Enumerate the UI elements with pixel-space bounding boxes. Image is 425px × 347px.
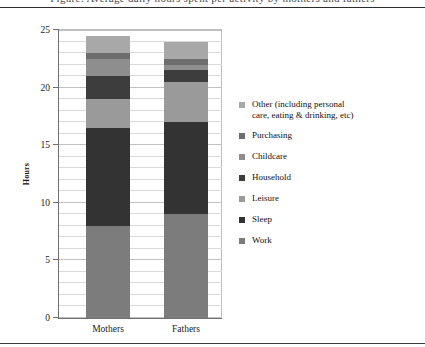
legend-swatch xyxy=(239,175,245,181)
bar-segment[interactable] xyxy=(86,76,130,99)
chart-legend: Other (including personalcare, eating & … xyxy=(239,99,419,256)
y-tick-label: 25 xyxy=(41,25,51,35)
legend-label: Sleep xyxy=(252,214,272,225)
y-tick-label: 15 xyxy=(41,140,51,150)
y-axis-title: Hours xyxy=(22,162,31,184)
y-tick-label: 10 xyxy=(41,198,51,208)
x-tick-label: Mothers xyxy=(92,324,124,334)
legend-item[interactable]: Work xyxy=(239,235,419,246)
plot-area: 0510152025 MothersFathers xyxy=(58,30,222,319)
bar-segment[interactable] xyxy=(86,99,130,128)
bar-group: MothersFathers xyxy=(59,30,222,318)
legend-label: Other (including personalcare, eating & … xyxy=(252,99,353,121)
bar-segment[interactable] xyxy=(86,128,130,226)
bar-segment[interactable] xyxy=(164,214,208,318)
legend-label: Work xyxy=(252,235,272,246)
legend-label: Childcare xyxy=(252,151,287,162)
bar-segment[interactable] xyxy=(86,59,130,76)
legend-item[interactable]: Purchasing xyxy=(239,130,419,141)
legend-swatch xyxy=(239,217,245,223)
bar-mothers[interactable]: Mothers xyxy=(86,42,130,318)
legend-swatch xyxy=(239,133,245,139)
legend-swatch xyxy=(239,154,245,160)
legend-label: Purchasing xyxy=(252,130,292,141)
bar-segment[interactable] xyxy=(164,70,208,82)
legend-label: Leisure xyxy=(252,193,279,204)
legend-item[interactable]: Sleep xyxy=(239,214,419,225)
bar-segment[interactable] xyxy=(86,36,130,53)
bottom-divider xyxy=(0,343,425,344)
bar-segment[interactable] xyxy=(164,82,208,122)
top-divider xyxy=(0,7,425,8)
y-tick-label: 5 xyxy=(45,255,50,265)
x-tick-label: Fathers xyxy=(172,324,200,334)
bar-segment[interactable] xyxy=(164,42,208,59)
legend-item[interactable]: Household xyxy=(239,172,419,183)
y-tick-label: 0 xyxy=(45,313,50,323)
bar-segment[interactable] xyxy=(86,226,130,318)
legend-item[interactable]: Childcare xyxy=(239,151,419,162)
legend-item[interactable]: Other (including personalcare, eating & … xyxy=(239,99,419,121)
bar-fathers[interactable]: Fathers xyxy=(164,42,208,318)
figure-caption-clipped: Figure: Average daily hours spent per ac… xyxy=(0,0,425,4)
chart-page: Figure: Average daily hours spent per ac… xyxy=(0,0,425,347)
bar-segment[interactable] xyxy=(164,122,208,214)
legend-swatch xyxy=(239,196,245,202)
y-tick-label: 20 xyxy=(41,83,51,93)
legend-swatch xyxy=(239,102,245,108)
legend-label: Household xyxy=(252,172,291,183)
legend-swatch xyxy=(239,238,245,244)
legend-item[interactable]: Leisure xyxy=(239,193,419,204)
